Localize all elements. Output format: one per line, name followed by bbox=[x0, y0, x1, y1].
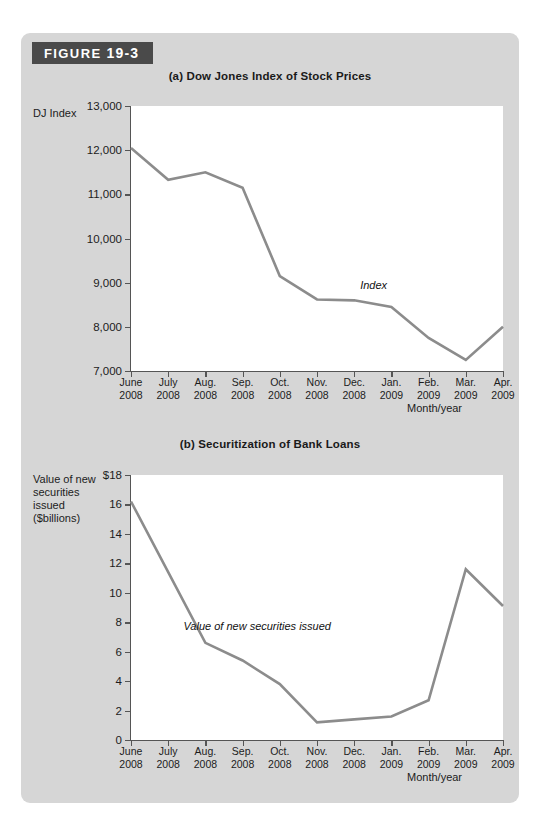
x-tick-label-line: Mar. bbox=[454, 745, 477, 758]
figure-badge: FIGURE 19-3 bbox=[32, 42, 153, 64]
panel-a-series-line bbox=[131, 148, 503, 360]
chart-panel-a: (a) Dow Jones Index of Stock Prices DJ I… bbox=[21, 63, 519, 438]
panel-b-plot-area: 0246810121416$18 June2008July2008Aug.200… bbox=[131, 475, 503, 740]
x-tick-label-line: 2008 bbox=[157, 758, 180, 771]
x-tick-label-line: Apr. bbox=[491, 745, 514, 758]
x-tick-label-line: 2009 bbox=[380, 389, 403, 402]
y-tick-label: 14 bbox=[109, 528, 122, 540]
x-tick-label-line: 2008 bbox=[194, 758, 217, 771]
panel-b-series-label: Value of new securities issued bbox=[183, 620, 331, 632]
x-tick-label-line: 2008 bbox=[157, 389, 180, 402]
panel-b-series-line bbox=[131, 502, 503, 723]
x-tick-label-line: Jan. bbox=[380, 745, 403, 758]
x-tick-label-line: 2009 bbox=[454, 389, 477, 402]
panel-b-y-axis-title-line4: ($billions) bbox=[33, 512, 96, 525]
x-tick-label-line: 2008 bbox=[268, 758, 291, 771]
panel-a-series-label: Index bbox=[360, 279, 387, 291]
y-tick-label: 8,000 bbox=[93, 321, 122, 333]
panel-a-title: (a) Dow Jones Index of Stock Prices bbox=[21, 70, 519, 82]
x-tick-label-line: Aug. bbox=[194, 376, 217, 389]
figure-badge-number: 19-3 bbox=[107, 45, 140, 61]
y-tick-label: 4 bbox=[116, 675, 122, 687]
x-tick-label-line: 2009 bbox=[417, 758, 440, 771]
y-tick-label: 16 bbox=[109, 498, 122, 510]
x-tick-label: Mar.2009 bbox=[454, 376, 477, 401]
panel-a-y-axis-title: DJ Index bbox=[33, 107, 76, 120]
panel-b-series-svg bbox=[131, 475, 503, 740]
y-tick-label: 10,000 bbox=[87, 233, 122, 245]
x-tick-label: Aug.2008 bbox=[194, 376, 217, 401]
x-tick-label: July2008 bbox=[157, 376, 180, 401]
x-tick-label: June2008 bbox=[119, 376, 142, 401]
y-tick-label: 9,000 bbox=[93, 277, 122, 289]
x-tick-label: Apr.2009 bbox=[491, 745, 514, 770]
x-tick-label-line: June bbox=[119, 745, 142, 758]
x-tick-label: Aug.2008 bbox=[194, 745, 217, 770]
y-tick-label: 11,000 bbox=[88, 188, 122, 200]
x-tick-label-line: 2009 bbox=[491, 389, 514, 402]
y-tick-label: 10 bbox=[109, 587, 122, 599]
panel-b-y-axis-title: Value of new securities issued ($billion… bbox=[33, 473, 96, 525]
panel-b-y-axis-title-line1: Value of new bbox=[33, 473, 96, 486]
x-tick-label-line: 2008 bbox=[231, 758, 254, 771]
x-tick-label-line: Dec. bbox=[343, 376, 366, 389]
y-tick-label: 12,000 bbox=[87, 144, 122, 156]
x-tick-label: Sep.2008 bbox=[231, 376, 254, 401]
x-tick-label-line: 2009 bbox=[380, 758, 403, 771]
x-tick-label-line: July bbox=[157, 376, 180, 389]
panel-a-x-axis-caption: Month/year bbox=[407, 402, 462, 414]
x-tick-label-line: Apr. bbox=[491, 376, 514, 389]
panel-a-plot-area: 7,0008,0009,00010,00011,00012,00013,000 … bbox=[131, 106, 503, 371]
panel-b-y-axis-title-line3: issued bbox=[33, 499, 96, 512]
x-tick-label: Jan.2009 bbox=[380, 376, 403, 401]
x-tick-label-line: Sep. bbox=[231, 745, 254, 758]
x-tick-label-line: Oct. bbox=[268, 745, 291, 758]
x-tick-label: Jan.2009 bbox=[380, 745, 403, 770]
x-tick-label: Feb.2009 bbox=[417, 745, 440, 770]
x-tick-label: Dec.2008 bbox=[343, 745, 366, 770]
panel-b-title: (b) Securitization of Bank Loans bbox=[21, 438, 519, 450]
x-tick-label-line: 2008 bbox=[305, 389, 328, 402]
x-tick-label-line: 2008 bbox=[343, 389, 366, 402]
x-tick-label-line: 2009 bbox=[454, 758, 477, 771]
x-tick-label: July2008 bbox=[157, 745, 180, 770]
y-tick-label: 7,000 bbox=[93, 365, 122, 377]
x-tick-label: Apr.2009 bbox=[491, 376, 514, 401]
figure-panel: FIGURE 19-3 (a) Dow Jones Index of Stock… bbox=[21, 33, 519, 803]
x-tick-label: Nov.2008 bbox=[305, 376, 328, 401]
panel-b-x-axis-caption: Month/year bbox=[407, 771, 462, 783]
x-tick-label-line: Nov. bbox=[305, 745, 328, 758]
x-tick-label: June2008 bbox=[119, 745, 142, 770]
x-tick-label: Oct.2008 bbox=[268, 745, 291, 770]
x-tick-label: Sep.2008 bbox=[231, 745, 254, 770]
y-tick-label: 8 bbox=[116, 616, 122, 628]
y-tick-label: $18 bbox=[103, 469, 122, 481]
x-tick-label: Oct.2008 bbox=[268, 376, 291, 401]
x-tick-label-line: 2008 bbox=[305, 758, 328, 771]
chart-panel-b: (b) Securitization of Bank Loans Value o… bbox=[21, 433, 519, 803]
x-tick-label: Nov.2008 bbox=[305, 745, 328, 770]
x-tick-label-line: Oct. bbox=[268, 376, 291, 389]
x-tick-label-line: 2008 bbox=[231, 389, 254, 402]
x-tick-label-line: 2008 bbox=[119, 758, 142, 771]
x-tick-label: Feb.2009 bbox=[417, 376, 440, 401]
x-tick-label-line: July bbox=[157, 745, 180, 758]
y-tick-label: 6 bbox=[116, 646, 122, 658]
x-tick-label: Dec.2008 bbox=[343, 376, 366, 401]
x-tick-label-line: Nov. bbox=[305, 376, 328, 389]
x-tick-label-line: Dec. bbox=[343, 745, 366, 758]
y-tick-label: 12 bbox=[109, 557, 122, 569]
y-tick-label: 13,000 bbox=[87, 100, 122, 112]
x-tick-label-line: June bbox=[119, 376, 142, 389]
x-tick-label-line: Aug. bbox=[194, 745, 217, 758]
figure-badge-prefix: FIGURE bbox=[44, 46, 102, 61]
x-tick-label-line: 2008 bbox=[343, 758, 366, 771]
x-tick-label: Mar.2009 bbox=[454, 745, 477, 770]
x-tick-label-line: 2009 bbox=[491, 758, 514, 771]
y-tick-label: 2 bbox=[116, 705, 122, 717]
x-tick-label-line: Feb. bbox=[417, 745, 440, 758]
panel-a-series-svg bbox=[131, 106, 503, 371]
x-tick-label-line: 2008 bbox=[194, 389, 217, 402]
x-tick-label-line: Feb. bbox=[417, 376, 440, 389]
x-tick-label-line: 2008 bbox=[268, 389, 291, 402]
